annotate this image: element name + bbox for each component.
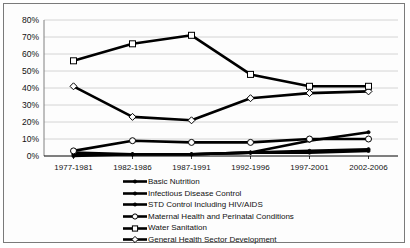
legend-label: Water Sanitation [148, 222, 207, 234]
data-point-marker [71, 58, 77, 64]
data-point-marker [190, 153, 193, 156]
data-point-marker [132, 237, 138, 243]
legend-item: General Health Sector Development [122, 234, 402, 246]
data-point-marker [132, 226, 137, 231]
line-chart: 0%10%20%30%40%50%60%70%80%1977-19811982-… [4, 4, 406, 179]
legend-marker-open-square-icon [122, 223, 148, 234]
x-axis-tick-label: 1992-1996 [231, 163, 270, 172]
y-axis-tick-label: 80% [22, 15, 39, 25]
data-point-marker [71, 148, 77, 154]
y-axis-tick-label: 60% [22, 49, 39, 59]
legend-label: STD Control Including HIV/AIDS [148, 199, 263, 211]
legend-item: Infectious Disease Control [122, 188, 402, 200]
legend-label: General Health Sector Development [148, 234, 277, 246]
x-axis-tick-label: 1987-1991 [172, 163, 211, 172]
legend-label: Maternal Health and Perinatal Conditions [148, 211, 294, 223]
legend-marker-dot-icon [122, 199, 148, 210]
data-point-marker [307, 136, 313, 142]
x-axis-tick-label: 1982-1986 [113, 163, 152, 172]
chart-frame: 0%10%20%30%40%50%60%70%80%1977-19811982-… [3, 3, 405, 243]
legend-item: STD Control Including HIV/AIDS [122, 199, 402, 211]
data-point-marker [189, 139, 195, 145]
series-general-health-sector-development [70, 83, 372, 124]
data-point-marker [308, 149, 311, 152]
data-point-marker [307, 83, 313, 89]
legend-item: Basic Nutrition [122, 176, 402, 188]
data-point-marker [133, 192, 136, 195]
x-axis-tick-label: 2002-2006 [349, 163, 388, 172]
y-axis-tick-label: 50% [22, 66, 39, 76]
data-point-marker [306, 90, 313, 97]
data-point-marker [72, 154, 75, 157]
data-point-marker [189, 32, 195, 38]
series-line [74, 35, 369, 86]
data-point-marker [248, 71, 254, 77]
legend-marker-open-circle-icon [122, 211, 148, 222]
chart-plot-container: 0%10%20%30%40%50%60%70%80%1977-19811982-… [4, 4, 406, 179]
y-axis-tick-label: 70% [22, 32, 39, 42]
data-point-marker [133, 203, 136, 206]
legend-item: Maternal Health and Perinatal Conditions [122, 211, 402, 223]
data-point-marker [188, 117, 195, 124]
data-point-marker [367, 148, 370, 151]
y-axis-tick-label: 30% [22, 100, 39, 110]
data-point-marker [132, 214, 137, 219]
legend-item: Water Sanitation [122, 222, 402, 234]
x-axis-tick-label: 1997-2001 [290, 163, 329, 172]
series-line [74, 86, 369, 120]
legend-marker-open-diamond-icon [122, 234, 148, 245]
series-water-sanitation [71, 32, 372, 89]
data-point-marker [366, 136, 372, 142]
data-point-marker [131, 153, 134, 156]
data-point-marker [130, 138, 136, 144]
y-axis-tick-label: 40% [22, 83, 39, 93]
legend-marker-dot-icon [122, 176, 148, 187]
data-point-marker [366, 83, 372, 89]
data-point-marker [367, 131, 370, 134]
data-point-marker [249, 151, 252, 154]
y-axis-tick-label: 10% [22, 134, 39, 144]
x-axis-tick-label: 1977-1981 [54, 163, 93, 172]
y-axis-tick-label: 20% [22, 117, 39, 127]
legend-label: Infectious Disease Control [148, 188, 241, 200]
legend-marker-dot-icon [122, 188, 148, 199]
legend-label: Basic Nutrition [148, 176, 200, 188]
y-axis-tick-label: 0% [27, 151, 40, 161]
chart-legend: Basic NutritionInfectious Disease Contro… [122, 176, 402, 246]
data-point-marker [248, 139, 254, 145]
series-line [74, 139, 369, 151]
data-point-marker [133, 180, 136, 183]
data-point-marker [130, 41, 136, 47]
data-point-marker [247, 95, 254, 102]
